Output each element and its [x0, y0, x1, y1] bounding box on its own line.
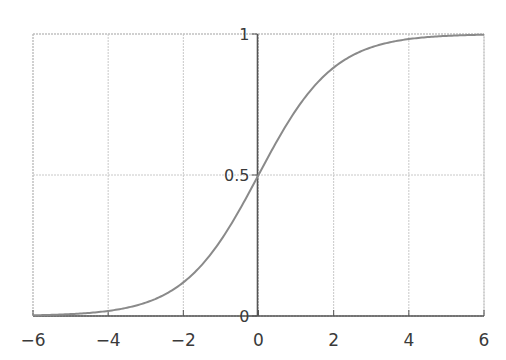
sigmoid-chart: −6−4−20246 00.51	[0, 0, 506, 360]
x-tick-label: 0	[253, 330, 264, 350]
x-tick-label: −4	[96, 330, 121, 350]
x-tick-label: 4	[403, 330, 414, 350]
y-axis-tick-labels: 00.51	[224, 25, 249, 326]
y-tick-label: 0	[239, 307, 249, 326]
x-tick-label: −2	[171, 330, 196, 350]
y-tick-label: 0.5	[224, 166, 249, 185]
x-tick-label: 2	[328, 330, 339, 350]
y-tick-label: 1	[239, 25, 249, 44]
x-tick-label: 6	[479, 330, 490, 350]
x-axis-tick-labels: −6−4−20246	[20, 330, 489, 350]
x-tick-label: −6	[20, 330, 45, 350]
